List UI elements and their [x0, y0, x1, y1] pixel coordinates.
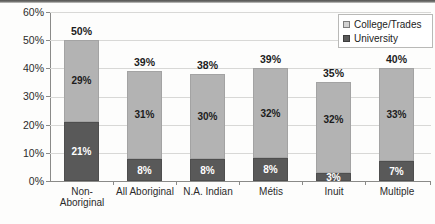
bar-group: 29% 21% [50, 12, 113, 181]
bar-segment-college[interactable]: 32% [316, 82, 351, 172]
segment-value-label: 8% [128, 166, 161, 176]
y-tick-label: 50% [4, 35, 44, 45]
x-axis-tick [302, 181, 303, 185]
bar-total-label: 39% [239, 54, 302, 65]
bar-total-label: 50% [50, 26, 113, 37]
legend-label: College/Trades [354, 19, 421, 30]
x-axis-line [50, 181, 431, 182]
stacked-bar[interactable]: 33% 7% [379, 68, 414, 181]
light-gray-swatch-icon [343, 21, 350, 28]
segment-value-label: 32% [317, 115, 350, 125]
x-axis-tick [430, 181, 431, 185]
bar-total-label: 40% [365, 54, 428, 65]
legend-label: University [354, 33, 398, 44]
bar-total-label: 38% [176, 60, 239, 71]
segment-value-label: 30% [191, 112, 224, 122]
bar-group: 32% 8% [239, 12, 302, 181]
y-tick-label: 20% [4, 120, 44, 130]
segment-value-label: 8% [191, 166, 224, 176]
stacked-bar-chart: 60% 50% 40% 30% 20% 10% 0% 29% [0, 0, 435, 224]
segment-value-label: 21% [65, 147, 98, 157]
bar-segment-university[interactable]: 8% [127, 159, 162, 182]
bar-segment-college[interactable]: 30% [190, 74, 225, 159]
bar-segment-university[interactable]: 8% [253, 158, 288, 181]
bar-segment-college[interactable]: 32% [253, 68, 288, 158]
category-label-line: Aboriginal [43, 197, 121, 208]
bar-segment-university[interactable]: 8% [190, 159, 225, 182]
stacked-bar[interactable]: 29% 21% [64, 40, 99, 181]
stacked-bar[interactable]: 31% 8% [127, 71, 162, 181]
bar-segment-college[interactable]: 31% [127, 71, 162, 158]
y-axis: 60% 50% 40% 30% 20% 10% 0% [2, 0, 44, 224]
bar-group: 31% 8% [113, 12, 176, 181]
bar-segment-university[interactable]: 7% [379, 161, 414, 181]
y-tick-label: 40% [4, 63, 44, 73]
x-axis-tick [239, 181, 240, 185]
x-axis-category-label: Multiple [358, 186, 435, 197]
bar-segment-college[interactable]: 33% [379, 68, 414, 161]
segment-value-label: 33% [380, 110, 413, 120]
bar-segment-college[interactable]: 29% [64, 40, 99, 122]
bar-total-label: 35% [302, 68, 365, 79]
bar-group: 30% 8% [176, 12, 239, 181]
x-axis-tick [113, 181, 114, 185]
segment-value-label: 31% [128, 110, 161, 120]
y-tick-label: 10% [4, 148, 44, 158]
bar-segment-university[interactable]: 3% [316, 173, 351, 182]
y-tick-label: 0% [4, 176, 44, 186]
segment-value-label: 32% [254, 109, 287, 119]
stacked-bar[interactable]: 30% 8% [190, 74, 225, 181]
x-axis-tick [365, 181, 366, 185]
y-tick-label: 60% [4, 7, 44, 17]
y-tick-label: 30% [4, 91, 44, 101]
legend-item-university[interactable]: University [343, 32, 428, 45]
bar-total-label: 39% [113, 57, 176, 68]
segment-value-label: 29% [65, 76, 98, 86]
legend-item-college-trades[interactable]: College/Trades [343, 18, 428, 31]
stacked-bar[interactable]: 32% 3% [316, 82, 351, 181]
x-axis-tick [176, 181, 177, 185]
segment-value-label: 8% [254, 165, 287, 175]
chart-legend: College/Trades University [338, 14, 433, 48]
segment-value-label: 3% [317, 173, 350, 183]
dark-gray-swatch-icon [343, 35, 350, 42]
stacked-bar[interactable]: 32% 8% [253, 68, 288, 181]
segment-value-label: 7% [380, 167, 413, 177]
bar-segment-university[interactable]: 21% [64, 122, 99, 181]
